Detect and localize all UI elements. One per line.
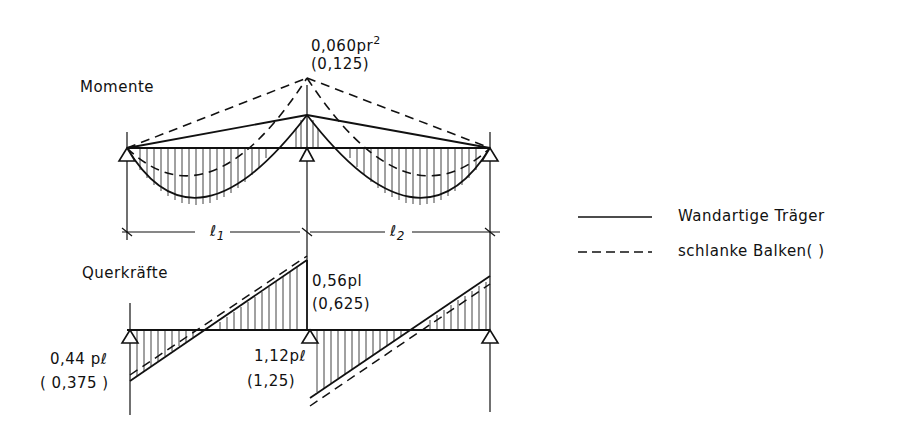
moment-peak-value: 0,060pr [311,37,373,55]
span-label-l2: ℓ2 [390,222,405,245]
support-right-icon [482,148,498,161]
shear-left-label: 0,44 pℓ [50,350,107,368]
support-right-shear-icon [482,330,498,343]
support-left-shear-icon [122,330,138,343]
support-mid-shear-icon [302,330,318,343]
moment-peak-exponent: 2 [373,34,381,47]
moment-peak-alt: (0,125) [311,55,369,73]
shear-left-alt: ( 0,375 ) [40,374,109,392]
legend-solid-label: Wandartige Träger [678,207,825,225]
shear-mid-bottom-alt: (1,25) [247,372,295,390]
moment-peak-label: 0,060pr2 [311,32,381,55]
shear-mid-top-label: 0,56pl [312,272,362,290]
shear-mid-bottom-label: 1,12pℓ [254,347,306,365]
support-left-icon [119,148,135,161]
shear-mid-top-alt: (0,625) [312,295,370,313]
moment-hatching [140,120,476,205]
shear-title: Querkräfte [82,264,168,282]
span-label-l1: ℓ1 [210,222,225,245]
moments-title: Momente [80,78,154,96]
legend-dashed-label: schlanke Balken( ) [678,242,825,260]
support-mid-icon [300,148,314,161]
